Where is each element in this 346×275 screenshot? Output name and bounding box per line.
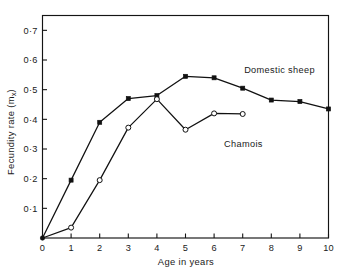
data-series-layer	[40, 74, 330, 240]
x-tick-label-3: 3	[126, 243, 131, 253]
x-tick-label-5: 5	[183, 243, 188, 253]
series-domestic-sheep	[40, 74, 330, 240]
x-tick-label-9: 9	[297, 243, 302, 253]
x-axis-title: Age in years	[158, 256, 214, 267]
data-point-0-8	[269, 98, 273, 102]
data-point-0-1	[69, 178, 73, 182]
data-point-0-9	[298, 100, 302, 104]
x-axis-ticks	[71, 234, 328, 239]
x-tick-label-1: 1	[68, 243, 73, 253]
data-point-0-2	[98, 120, 102, 124]
y-tick-label-0.3: 0·3	[24, 144, 38, 154]
series-chamois	[43, 97, 246, 238]
x-tick-label-6: 6	[211, 243, 216, 253]
series-inline-labels: Domestic sheepChamois	[224, 65, 315, 148]
fecundity-rate-chart: 0·10·20·30·40·50·60·7 012345678910 Domes…	[0, 0, 346, 275]
data-point-1-1	[69, 225, 74, 230]
y-axis-ticks	[43, 30, 48, 208]
x-axis-tick-labels: 012345678910	[40, 243, 334, 253]
data-point-1-4	[154, 97, 159, 102]
x-tick-label-2: 2	[97, 243, 102, 253]
data-point-0-3	[126, 97, 130, 101]
data-point-0-10	[327, 107, 331, 111]
chart-canvas: 0·10·20·30·40·50·60·7 012345678910 Domes…	[0, 0, 346, 275]
x-tick-label-7: 7	[240, 243, 245, 253]
x-tick-label-0: 0	[40, 243, 45, 253]
y-axis-tick-labels: 0·10·20·30·40·50·60·7	[24, 26, 38, 214]
y-tick-label-0.2: 0·2	[24, 174, 38, 184]
data-point-0-5	[184, 74, 188, 78]
x-tick-label-4: 4	[154, 243, 159, 253]
series-label-chamois: Chamois	[224, 139, 263, 149]
data-point-1-7	[240, 111, 245, 116]
data-point-0-6	[212, 76, 216, 80]
y-axis-title-group: Fecundity rate (mx)	[5, 89, 17, 175]
y-tick-label-0.4: 0·4	[24, 115, 38, 125]
data-point-1-3	[126, 125, 131, 130]
y-tick-label-0.5: 0·5	[24, 85, 38, 95]
y-axis-title: Fecundity rate (mx)	[5, 89, 17, 175]
y-tick-label-0.1: 0·1	[24, 204, 38, 214]
y-tick-label-0.7: 0·7	[24, 26, 38, 36]
data-point-1-6	[212, 111, 217, 116]
data-point-1-2	[97, 178, 102, 183]
data-point-0-7	[241, 86, 245, 90]
y-tick-label-0.6: 0·6	[24, 55, 38, 65]
x-tick-label-10: 10	[323, 243, 334, 253]
series-label-domestic-sheep: Domestic sheep	[244, 65, 315, 75]
x-tick-label-8: 8	[269, 243, 274, 253]
data-point-1-5	[183, 127, 188, 132]
series-line-1	[43, 99, 243, 238]
series-line-0	[43, 76, 329, 238]
